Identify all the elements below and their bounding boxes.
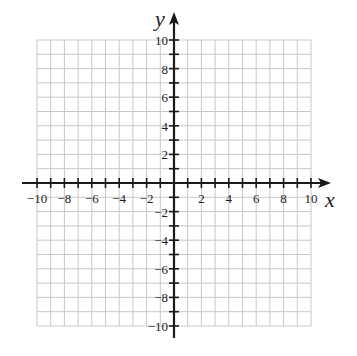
y-tick-label: −2	[154, 205, 168, 220]
x-tick-label: 8	[280, 191, 287, 206]
y-tick-label: 8	[162, 62, 169, 77]
y-tick-label: −6	[154, 262, 168, 277]
y-tick-label: −8	[154, 290, 168, 305]
x-tick-label: −2	[140, 191, 154, 206]
y-tick-label: 4	[162, 119, 169, 134]
x-tick-label: −6	[85, 191, 99, 206]
x-tick-label: 6	[253, 191, 260, 206]
x-axis-label: x	[324, 187, 335, 212]
y-tick-label: −10	[148, 319, 168, 334]
y-tick-label: 2	[162, 147, 169, 162]
x-tick-label: −8	[57, 191, 71, 206]
axes	[22, 12, 331, 338]
y-axis-label: y	[153, 6, 165, 31]
x-tick-label: 10	[305, 191, 318, 206]
x-tick-label: −10	[27, 191, 47, 206]
x-tick-label: 2	[198, 191, 205, 206]
y-tick-label: 6	[162, 90, 169, 105]
y-tick-label: −4	[154, 233, 168, 248]
x-tick-label: −4	[112, 191, 126, 206]
coordinate-plane: −10−8−6−4−2246810108642−2−4−6−8−10 x y	[0, 0, 357, 356]
x-tick-label: 4	[226, 191, 233, 206]
y-tick-label: 10	[155, 33, 168, 48]
